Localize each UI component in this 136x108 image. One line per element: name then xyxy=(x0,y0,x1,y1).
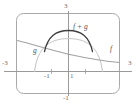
x-tick-label-neg1: -1 xyxy=(44,73,50,80)
y-axis-max-label: 3 xyxy=(64,3,68,10)
curve-label-f: f xyxy=(110,45,112,53)
curve-label-g: g xyxy=(33,47,37,55)
function-graph-figure: 3 -3 3 -1 -1 1 f + g g f xyxy=(0,0,136,108)
x-tick-label-1: 1 xyxy=(70,73,74,80)
y-axis-min-label: -1 xyxy=(63,95,69,102)
curve-label-f-plus-g: f + g xyxy=(73,23,88,31)
plot-canvas xyxy=(0,0,136,108)
x-axis-max-label: 3 xyxy=(128,60,132,67)
x-axis-min-label: -3 xyxy=(2,60,8,67)
